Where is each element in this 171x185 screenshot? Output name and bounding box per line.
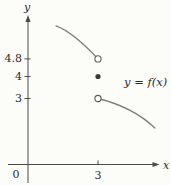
curve-left-branch bbox=[56, 26, 98, 59]
y-axis-arrow-icon bbox=[25, 15, 30, 22]
open-point-bottom bbox=[95, 95, 101, 101]
x-axis-label: x bbox=[163, 159, 170, 172]
open-point-top bbox=[95, 56, 101, 62]
filled-point bbox=[95, 74, 100, 79]
function-graph-figure: y x 0 4.8 4 3 3 y = f(x) bbox=[0, 0, 171, 185]
plot-canvas: y x 0 4.8 4 3 3 y = f(x) bbox=[0, 0, 171, 185]
y-tick-label-4-8: 4.8 bbox=[5, 52, 23, 65]
curve-right-branch bbox=[98, 99, 155, 129]
y-tick-label-3: 3 bbox=[15, 92, 22, 105]
y-tick-label-4: 4 bbox=[15, 70, 22, 83]
x-axis-arrow-icon bbox=[153, 162, 160, 167]
function-annotation: y = f(x) bbox=[123, 75, 167, 89]
origin-label: 0 bbox=[13, 168, 20, 181]
y-axis-label: y bbox=[23, 1, 31, 14]
x-tick-label-3: 3 bbox=[95, 169, 102, 182]
